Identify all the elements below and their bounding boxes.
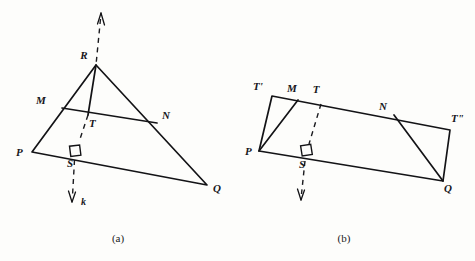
caption-figure-b: (b) bbox=[338, 232, 351, 245]
label-n-b: N bbox=[378, 100, 388, 112]
label-s-b: S bbox=[299, 158, 305, 170]
label-p-a: P bbox=[16, 146, 23, 158]
label-n-a: N bbox=[161, 109, 171, 121]
segment-nq-b bbox=[394, 115, 443, 181]
triangle-pqr bbox=[32, 65, 207, 185]
label-q-b: Q bbox=[444, 182, 452, 194]
figure-page: R M T N P S Q k bbox=[0, 0, 475, 261]
caption-figure-a: (a) bbox=[112, 232, 125, 245]
label-k-ray: k bbox=[81, 196, 86, 207]
label-t-second-b: T" bbox=[451, 112, 464, 124]
line-k-dashed bbox=[73, 19, 101, 196]
label-s-a: S bbox=[67, 157, 73, 169]
label-r-a: R bbox=[79, 49, 87, 61]
figure-a-group: R M T N P S Q k bbox=[16, 13, 221, 207]
label-t-b: T bbox=[313, 83, 321, 95]
label-m-b: M bbox=[286, 82, 298, 94]
label-q-a: Q bbox=[213, 182, 221, 194]
segment-rt bbox=[88, 65, 96, 115]
right-angle-mark-s-b bbox=[301, 144, 313, 156]
line-b-bottom-arrowhead bbox=[298, 189, 305, 200]
line-k-t-to-s bbox=[79, 115, 88, 142]
right-angle-mark-s-a bbox=[70, 145, 81, 156]
line-k-above-r bbox=[96, 19, 101, 65]
line-b-t-to-s bbox=[309, 104, 321, 144]
line-k-top-arrowhead bbox=[98, 13, 105, 25]
label-p-b: P bbox=[245, 145, 252, 157]
geometry-figure-canvas: R M T N P S Q k bbox=[0, 0, 475, 261]
label-m-a: M bbox=[35, 94, 47, 106]
figure-b-group: T' M T N T" P S Q bbox=[245, 80, 464, 200]
label-t-prime-b: T' bbox=[253, 80, 263, 92]
label-t-a: T bbox=[89, 117, 97, 129]
parallelogram-tptpqp bbox=[259, 96, 450, 181]
